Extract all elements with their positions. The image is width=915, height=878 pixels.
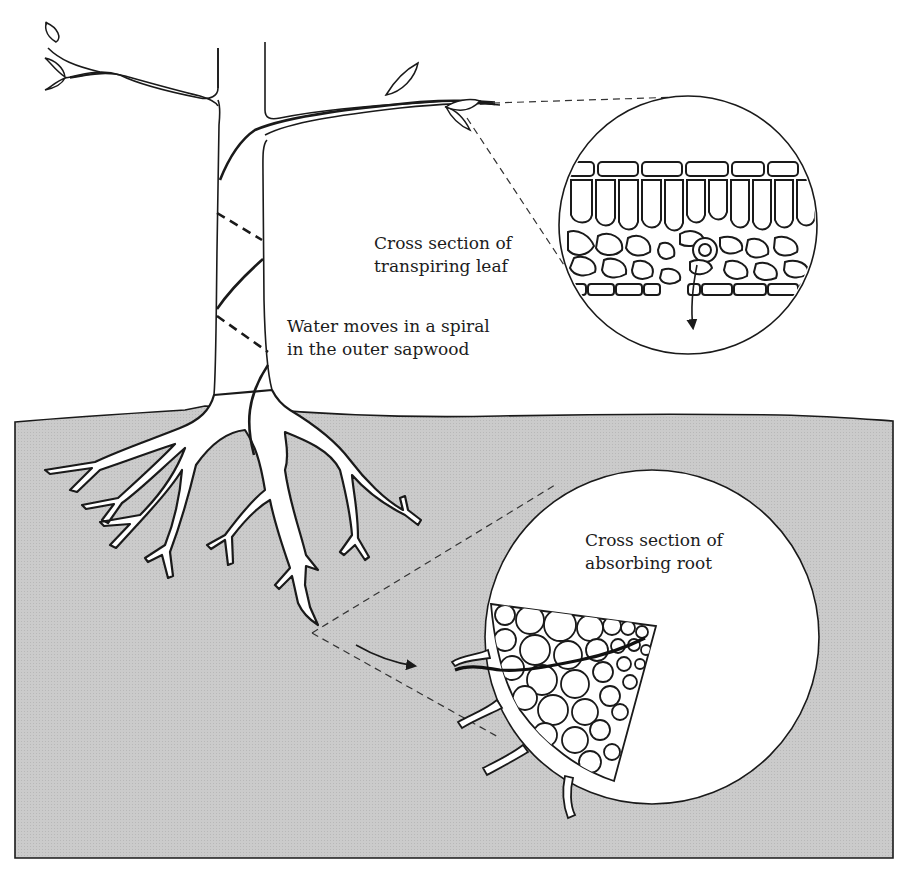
diagram-canvas: [0, 0, 915, 878]
leaf-cross-section-label: Cross section of transpiring leaf: [374, 232, 512, 278]
label-line: absorbing root: [585, 552, 723, 575]
label-line: transpiring leaf: [374, 255, 512, 278]
leaves: [45, 22, 493, 130]
tree-branches: [48, 48, 500, 180]
spiral-water-label: Water moves in a spiral in the outer sap…: [287, 315, 490, 361]
root-cross-section-label: Cross section of absorbing root: [585, 529, 723, 575]
tree-water-transport-diagram: Cross section of transpiring leaf Water …: [0, 0, 915, 878]
label-line: Cross section of: [374, 232, 512, 255]
label-line: Water moves in a spiral: [287, 315, 490, 338]
palisade-layer: [571, 180, 815, 231]
label-line: in the outer sapwood: [287, 338, 490, 361]
leaf-cross-section: [559, 96, 820, 354]
label-line: Cross section of: [585, 529, 723, 552]
